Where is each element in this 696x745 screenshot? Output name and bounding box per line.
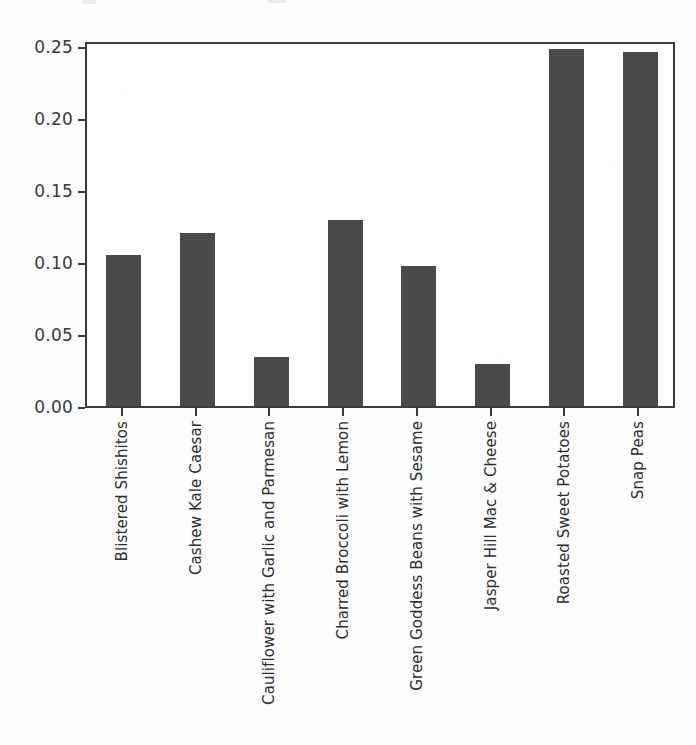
x-tick-label: Snap Peas <box>629 421 647 499</box>
y-tick-mark <box>78 47 85 49</box>
y-tick-label: 0.15 <box>34 181 73 201</box>
y-tick-label: 0.20 <box>34 109 73 129</box>
y-tick-label: 0.00 <box>34 397 73 417</box>
x-tick-label: Charred Broccoli with Lemon <box>334 421 352 639</box>
x-tick-mark <box>121 408 123 416</box>
x-tick-mark <box>268 408 270 416</box>
bar <box>328 220 363 406</box>
plot-frame <box>85 42 675 408</box>
x-tick-label: Blistered Shishitos <box>113 421 131 561</box>
x-tick-label: Green Goddess Beans with Sesame <box>408 421 426 691</box>
x-tick-label: Cashew Kale Caesar <box>187 421 205 575</box>
chart-page: 0.000.050.100.150.200.25 Blistered Shish… <box>0 0 696 745</box>
bar <box>549 49 584 406</box>
y-tick-label: 0.25 <box>34 37 73 57</box>
x-tick-mark <box>563 408 565 416</box>
y-tick-mark <box>78 263 85 265</box>
scan-artifact-left <box>82 0 96 4</box>
y-tick-mark <box>78 191 85 193</box>
x-tick-mark <box>342 408 344 416</box>
x-tick-mark <box>416 408 418 416</box>
x-tick-label: Cauliflower with Garlic and Parmesan <box>260 421 278 705</box>
x-tick-mark <box>490 408 492 416</box>
y-tick-label: 0.05 <box>34 325 73 345</box>
bar <box>475 364 510 406</box>
y-tick-mark <box>78 119 85 121</box>
bar <box>106 255 141 406</box>
x-tick-mark <box>637 408 639 416</box>
y-tick-mark <box>78 335 85 337</box>
bar <box>180 233 215 406</box>
x-tick-label: Roasted Sweet Potatoes <box>555 421 573 604</box>
y-tick-label: 0.10 <box>34 253 73 273</box>
plot-area <box>87 44 673 406</box>
x-tick-mark <box>195 408 197 416</box>
bar <box>623 52 658 406</box>
scan-artifact-right <box>268 0 286 3</box>
bar <box>254 357 289 406</box>
y-tick-mark <box>78 407 85 409</box>
x-tick-label: Jasper Hill Mac & Cheese <box>482 421 500 610</box>
bar <box>401 266 436 406</box>
